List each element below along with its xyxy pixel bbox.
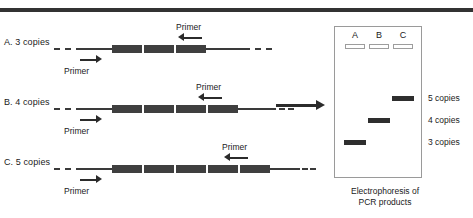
pcr-strand-a (54, 43, 274, 55)
gel-band-c-5-copies (392, 96, 414, 101)
extension-line-right-c (270, 168, 294, 170)
repeat-block (176, 45, 206, 53)
arrow-right-icon (316, 100, 325, 110)
gel-lane-label-b: B (368, 30, 390, 40)
gel-band-b-4-copies (368, 118, 390, 123)
forward-primer-b (80, 116, 106, 126)
gel-size-label-5-copies: 5 copies (428, 93, 460, 103)
repeat-block (240, 165, 270, 173)
gel-caption: Electrophoresis of PCR products (330, 186, 440, 208)
pcr-strand-b (54, 103, 282, 115)
gel-well-c (393, 44, 413, 49)
pcr-row-b: B. 4 copies Primer Primer (0, 82, 280, 138)
flank-dashed-right-c (294, 168, 316, 170)
pcr-row-b-label: B. 4 copies (4, 97, 50, 107)
extension-line-left-b (82, 108, 112, 110)
gel-well-b (369, 44, 389, 49)
repeat-block (144, 165, 174, 173)
arrow-left-icon (224, 153, 230, 161)
repeat-block (176, 105, 206, 113)
flank-dashed-left-a (54, 48, 82, 50)
arrow-right-icon (96, 115, 102, 123)
forward-primer-label-b: Primer (64, 126, 89, 136)
gel-caption-line-2: PCR products (330, 197, 440, 208)
repeat-block (144, 45, 174, 53)
arrow-left-icon (198, 93, 204, 101)
arrow-right-icon (96, 175, 102, 183)
reverse-primer-c (222, 154, 248, 164)
reverse-primer-label-a: Primer (176, 22, 201, 32)
repeat-block (176, 165, 206, 173)
arrow-left-icon (178, 33, 184, 41)
repeat-block (208, 105, 238, 113)
pcr-row-a: A. 3 copies Primer Primer (0, 22, 280, 78)
extension-line-left-a (82, 48, 112, 50)
forward-primer-a (80, 56, 106, 66)
forward-primer-label-a: Primer (64, 66, 89, 76)
repeat-block (112, 165, 142, 173)
pcr-row-a-label: A. 3 copies (4, 37, 50, 47)
flank-dashed-left-b (54, 108, 82, 110)
pcr-strand-c (54, 163, 290, 175)
gel-size-label-3-copies: 3 copies (428, 137, 460, 147)
pcr-row-c-label: C. 5 copies (4, 157, 50, 167)
gel-lane-label-a: A (344, 30, 366, 40)
reverse-primer-a (176, 34, 202, 44)
reverse-primer-label-b: Primer (196, 82, 221, 92)
gel-lane-label-c: C (392, 30, 414, 40)
gel-size-label-4-copies: 4 copies (428, 115, 460, 125)
reverse-primer-shaft-b (204, 97, 222, 99)
extension-line-right-b (238, 108, 270, 110)
pcr-row-c: C. 5 copies Primer Primer (0, 142, 280, 198)
flow-arrow (276, 100, 330, 110)
forward-primer-c (80, 176, 106, 186)
gel-caption-line-1: Electrophoresis of (330, 186, 440, 197)
pcr-template-panel: A. 3 copies Primer Primer B. 4 copies (0, 22, 280, 204)
gel-panel: A B C (334, 26, 422, 178)
gel-well-a (345, 44, 365, 49)
repeat-block (112, 45, 142, 53)
forward-primer-label-c: Primer (64, 186, 89, 196)
reverse-primer-shaft-c (230, 157, 248, 159)
repeat-block (144, 105, 174, 113)
repeat-block (208, 165, 238, 173)
top-divider-rule (0, 8, 473, 12)
reverse-primer-shaft-a (184, 37, 202, 39)
flank-dashed-right-a (244, 48, 272, 50)
arrow-right-icon (96, 55, 102, 63)
reverse-primer-b (196, 94, 222, 104)
flank-dashed-left-c (54, 168, 82, 170)
extension-line-left-c (82, 168, 112, 170)
extension-line-right-a (206, 48, 244, 50)
flow-arrow-shaft (276, 104, 318, 107)
repeat-block (112, 105, 142, 113)
reverse-primer-label-c: Primer (222, 142, 247, 152)
gel-band-a-3-copies (344, 140, 366, 145)
